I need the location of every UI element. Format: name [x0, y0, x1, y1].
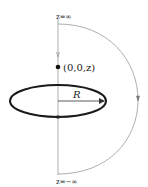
top-label: z=∞ — [56, 13, 72, 21]
field-point-dot — [56, 65, 61, 70]
biot-savart-loop-diagram: z=∞ z=−∞ (0,0,z) R — [0, 0, 148, 187]
return-arc — [58, 24, 138, 174]
arc-arrow-icon — [137, 96, 140, 101]
point-label: (0,0,z) — [63, 62, 95, 73]
bottom-label: z=−∞ — [56, 178, 77, 186]
radius-label: R — [72, 89, 81, 100]
loop-axis-mark — [57, 116, 60, 119]
